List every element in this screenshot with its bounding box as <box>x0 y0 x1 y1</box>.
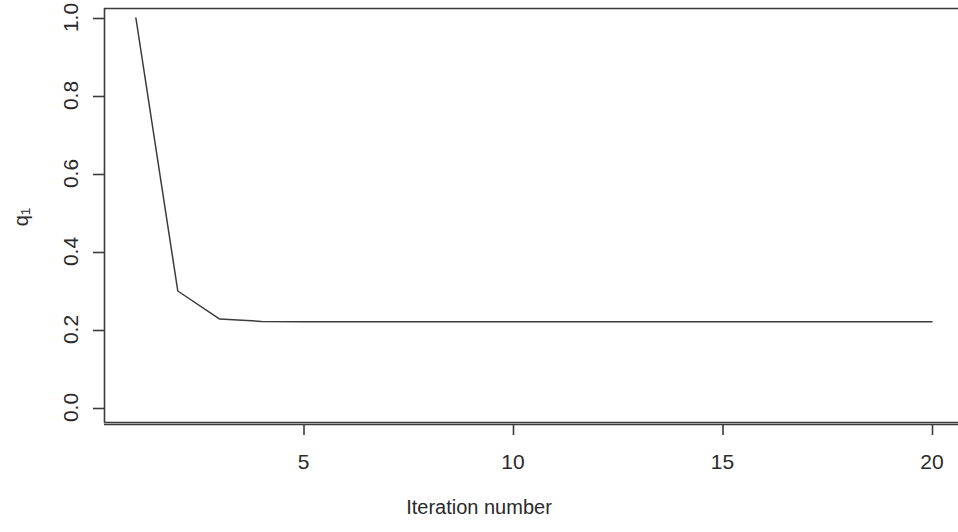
x-axis <box>104 424 958 435</box>
x-tick-label: 15 <box>683 451 763 472</box>
plot-box-border <box>104 8 958 423</box>
data-series-line <box>136 18 932 322</box>
y-tick-label: 0.4 <box>60 220 81 284</box>
x-tick-label: 20 <box>892 451 958 472</box>
y-tick-label: 0.2 <box>60 298 81 362</box>
y-tick-label: 1.0 <box>60 0 81 50</box>
x-axis-title: Iteration number <box>0 497 958 517</box>
y-tick-label: 0.6 <box>60 142 81 206</box>
x-tick-label: 5 <box>264 451 344 472</box>
x-axis-ticks <box>304 424 933 435</box>
y-tick-label: 0.0 <box>60 376 81 440</box>
y-tick-label: 0.8 <box>60 64 81 128</box>
x-tick-label: 10 <box>473 451 553 472</box>
chart-figure: 0.00.20.40.60.81.0 5101520 q1 Iteration … <box>0 0 958 532</box>
y-axis-ticks <box>93 19 104 409</box>
y-axis-title: q1 <box>11 187 33 247</box>
